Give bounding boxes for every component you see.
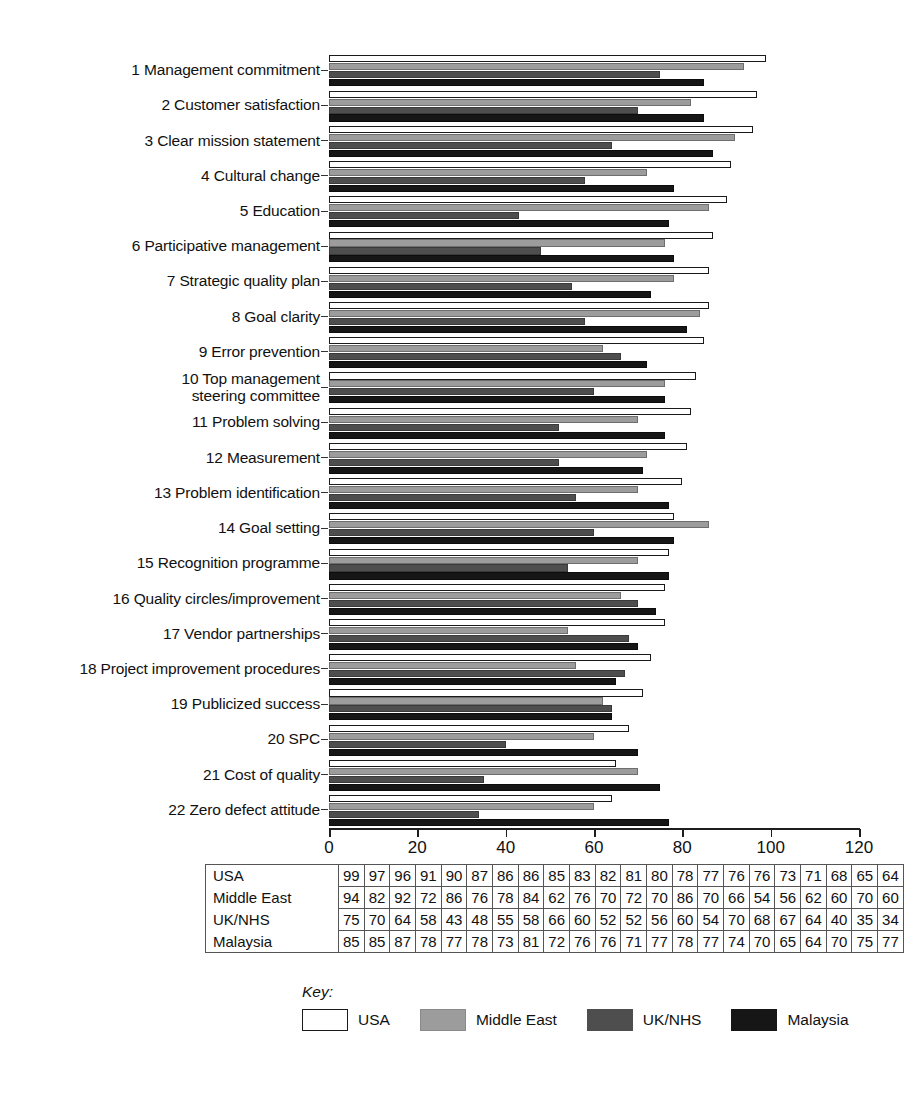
table-cell: 76	[570, 887, 596, 909]
bar-middle-east	[329, 345, 603, 352]
legend-items: USAMiddle EastUK/NHSMalaysia	[302, 1009, 862, 1031]
bar-usa	[329, 513, 674, 520]
legend-item: UK/NHS	[587, 1009, 702, 1031]
legend-title: Key:	[302, 983, 862, 1001]
table-cell: 70	[698, 887, 724, 909]
bar-usa	[329, 196, 727, 203]
y-tickmark	[321, 563, 328, 564]
bar-malaysia	[329, 608, 656, 615]
table-cell: 60	[570, 909, 596, 931]
table-cell: 70	[647, 887, 673, 909]
category-label: 22 Zero defect attitude	[60, 801, 320, 818]
x-tickmark	[506, 829, 508, 837]
table-cell: 62	[544, 887, 570, 909]
x-tick-label: 120	[845, 838, 873, 858]
table-cell: 70	[852, 887, 878, 909]
table-cell: 72	[621, 887, 647, 909]
legend-swatch	[420, 1009, 466, 1031]
table-cell: 72	[544, 931, 570, 953]
category-label: 2 Customer satisfaction	[60, 96, 320, 113]
bar-malaysia	[329, 819, 669, 826]
table-cell: 75	[852, 931, 878, 953]
bar-group	[329, 122, 859, 157]
y-tickmark	[321, 105, 328, 106]
legend-swatch	[587, 1009, 633, 1031]
y-tickmark	[321, 211, 328, 212]
y-tickmark	[321, 704, 328, 705]
table-cell: 76	[467, 887, 493, 909]
x-tick-label: 80	[673, 838, 692, 858]
bar-usa	[329, 725, 629, 732]
bar-uk-nhs	[329, 212, 519, 219]
y-tickmark	[321, 70, 328, 71]
y-tickmark	[321, 457, 328, 458]
category-label: 1 Management commitment	[60, 61, 320, 78]
bar-usa	[329, 408, 691, 415]
bar-usa	[329, 619, 665, 626]
bar-middle-east	[329, 275, 674, 282]
table-cell: 35	[852, 909, 878, 931]
bar-uk-nhs	[329, 670, 625, 677]
bar-group	[329, 158, 859, 193]
bar-malaysia	[329, 361, 647, 368]
table-cell: 70	[364, 909, 390, 931]
table-cell: 77	[698, 931, 724, 953]
bar-middle-east	[329, 380, 665, 387]
table-cell: 55	[493, 909, 519, 931]
x-tickmark	[329, 829, 331, 837]
table-cell: 70	[749, 931, 775, 953]
bar-usa	[329, 337, 704, 344]
table-cell: 86	[441, 887, 467, 909]
bar-group	[329, 404, 859, 439]
y-tickmark	[321, 492, 328, 493]
table-cell: 74	[724, 931, 750, 953]
table-cell: 78	[493, 887, 519, 909]
table-cell: 77	[878, 931, 904, 953]
x-tickmark	[771, 829, 773, 837]
y-tickmark	[321, 774, 328, 775]
bar-usa	[329, 443, 687, 450]
table-cell: 78	[672, 865, 698, 887]
table-row: UK/NHS7570645843485558666052525660547068…	[206, 909, 904, 931]
table-cell: 82	[595, 865, 621, 887]
y-tickmark	[321, 246, 328, 247]
table-row: USA9997969190878686858382818078777676737…	[206, 865, 904, 887]
bar-middle-east	[329, 592, 621, 599]
bar-malaysia	[329, 784, 660, 791]
table-cell: 73	[493, 931, 519, 953]
bar-usa	[329, 654, 651, 661]
table-cell: 52	[621, 909, 647, 931]
table-cell: 77	[647, 931, 673, 953]
legend-label: Malaysia	[787, 1011, 848, 1029]
bar-uk-nhs	[329, 494, 576, 501]
legend-swatch	[731, 1009, 777, 1031]
bar-middle-east	[329, 451, 647, 458]
table-cell: 56	[775, 887, 801, 909]
category-label: 11 Problem solving	[60, 413, 320, 430]
table-cell: 83	[570, 865, 596, 887]
bar-group	[329, 792, 859, 827]
category-label: 12 Measurement	[60, 449, 320, 466]
category-label: 9 Error prevention	[60, 343, 320, 360]
table-cell: 70	[595, 887, 621, 909]
y-tickmark	[321, 175, 328, 176]
bar-malaysia	[329, 255, 674, 262]
bar-middle-east	[329, 169, 647, 176]
bar-malaysia	[329, 572, 669, 579]
bar-usa	[329, 478, 682, 485]
bar-middle-east	[329, 662, 576, 669]
x-tickmark	[594, 829, 596, 837]
bar-usa	[329, 372, 696, 379]
bar-group	[329, 228, 859, 263]
bar-malaysia	[329, 150, 713, 157]
table-cell: 60	[878, 887, 904, 909]
table-cell: 60	[826, 887, 852, 909]
bar-middle-east	[329, 310, 700, 317]
bar-uk-nhs	[329, 564, 568, 571]
table-cell: 85	[544, 865, 570, 887]
bar-uk-nhs	[329, 459, 559, 466]
y-tickmark	[321, 528, 328, 529]
bar-uk-nhs	[329, 600, 638, 607]
bar-uk-nhs	[329, 635, 629, 642]
category-label: 21 Cost of quality	[60, 766, 320, 783]
